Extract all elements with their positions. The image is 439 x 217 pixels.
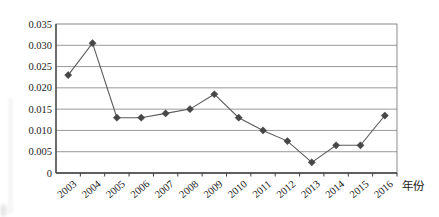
x-tick-label: 2013	[299, 178, 322, 200]
x-tick-label: 2011	[250, 178, 273, 200]
data-point-marker	[333, 142, 340, 149]
x-tick-label: 2004	[80, 178, 104, 200]
y-tick-label: 0	[47, 168, 52, 179]
data-point-marker	[138, 114, 145, 121]
x-tick-label: 2012	[275, 178, 298, 200]
y-tick-labels-group: 00.0050.0100.0150.0200.0250.0300.035	[28, 19, 52, 179]
y-tick-label: 0.020	[28, 82, 52, 93]
line-chart-canvas: 00.0050.0100.0150.0200.0250.0300.0352003…	[0, 0, 439, 217]
x-tick-label: 2015	[348, 178, 371, 200]
y-tick-label: 0.005	[28, 146, 52, 157]
y-tick-label: 0.035	[28, 19, 52, 30]
x-tick-label: 2003	[55, 178, 78, 200]
x-tick-label: 2009	[201, 178, 224, 200]
y-tick-label: 0.025	[28, 61, 52, 72]
x-axis-title: 年份	[402, 179, 425, 192]
plot-border	[56, 24, 397, 173]
x-tick-label: 2005	[104, 178, 127, 200]
y-tick-label: 0.030	[28, 40, 52, 51]
chart-page: 00.0050.0100.0150.0200.0250.0300.0352003…	[0, 0, 439, 217]
x-tick-label: 2007	[153, 178, 176, 200]
data-points-group	[65, 40, 389, 166]
y-tick-label: 0.010	[28, 125, 52, 136]
data-point-marker	[186, 106, 193, 113]
data-point-marker	[259, 127, 266, 134]
data-point-marker	[162, 110, 169, 117]
y-tick-label: 0.015	[28, 104, 52, 115]
gridlines-group	[56, 45, 397, 151]
x-tick-label: 2014	[323, 178, 347, 200]
x-tick-label: 2008	[177, 178, 200, 200]
x-tick-label: 2006	[128, 178, 151, 200]
line-chart-figure: 00.0050.0100.0150.0200.0250.0300.0352003…	[0, 0, 439, 217]
x-tick-labels-group: 2003200420052006200720082009201020112012…	[55, 178, 395, 200]
x-tick-label: 2016	[372, 178, 395, 200]
data-point-marker	[113, 114, 120, 121]
x-tick-label: 2010	[226, 178, 249, 200]
